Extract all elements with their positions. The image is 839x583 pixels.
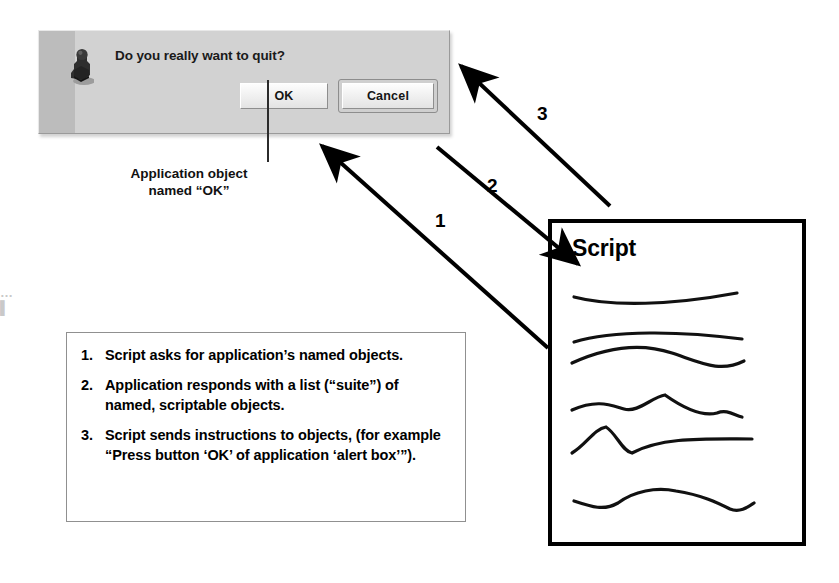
- ok-object-caption: Application object named “OK”: [104, 165, 274, 199]
- arrow-3-label: 3: [537, 103, 548, 125]
- edge-bar: ▌: [0, 300, 22, 315]
- script-document: Script: [548, 219, 806, 546]
- cancel-button[interactable]: Cancel: [342, 83, 434, 109]
- caption-line-1: Application object: [104, 165, 274, 182]
- page-edge-marks: … ▌: [0, 285, 22, 345]
- caption-leader-line: [267, 80, 269, 162]
- ok-button[interactable]: OK: [240, 83, 328, 109]
- arrow-2-label: 2: [487, 175, 498, 197]
- arrow-3: [461, 66, 610, 206]
- step-number: 3.: [81, 425, 105, 465]
- list-item: 1. Script asks for application’s named o…: [81, 345, 451, 365]
- step-number: 2.: [81, 375, 105, 415]
- edge-dots: …: [0, 285, 22, 300]
- alert-figure-icon: [64, 45, 94, 87]
- steps-list-box: 1. Script asks for application’s named o…: [66, 332, 466, 522]
- diagram-canvas: … ▌ Do you really want to quit? OK Cance…: [0, 0, 839, 583]
- dialog-message: Do you really want to quit?: [115, 48, 285, 63]
- cancel-button-default-ring: Cancel: [338, 79, 438, 113]
- step-text: Script asks for application’s named obje…: [105, 345, 451, 365]
- arrow-1-label: 1: [435, 210, 446, 232]
- step-number: 1.: [81, 345, 105, 365]
- list-item: 2. Application responds with a list (“su…: [81, 375, 451, 415]
- list-item: 3. Script sends instructions to objects,…: [81, 425, 451, 465]
- step-text: Application responds with a list (“suite…: [105, 375, 451, 415]
- script-document-title: Script: [572, 235, 636, 262]
- script-squiggle-lines: [552, 275, 802, 540]
- step-text: Script sends instructions to objects, (f…: [105, 425, 451, 465]
- caption-line-2: named “OK”: [104, 182, 274, 199]
- alert-dialog: Do you really want to quit? OK Cancel: [38, 30, 450, 134]
- arrow-1: [322, 146, 548, 348]
